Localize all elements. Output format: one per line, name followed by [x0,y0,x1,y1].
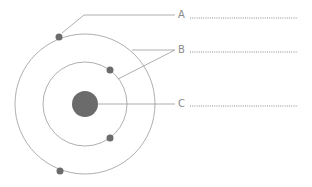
electron-inner-top [107,67,114,74]
label-b: B [178,45,185,55]
atom-diagram [0,0,312,187]
leader-line-a [62,15,175,33]
electron-inner-bottom [107,135,114,142]
leader-line-b-inner [118,50,175,79]
nucleus [72,91,98,117]
electron-outer-top [56,34,63,41]
label-c: C [178,99,185,109]
label-a: A [178,10,185,20]
electron-outer-bottom [57,168,64,175]
